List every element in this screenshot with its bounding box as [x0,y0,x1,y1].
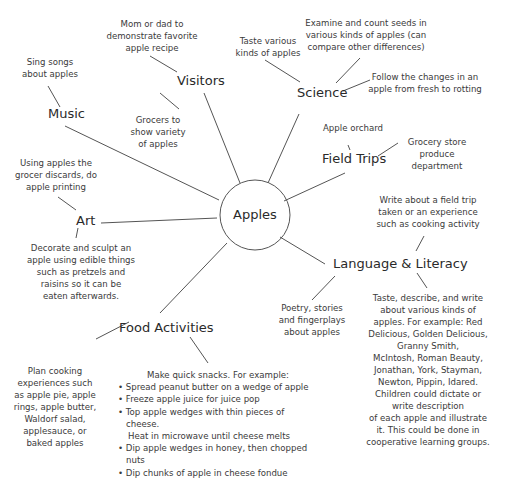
note-line: as apple pie, apple [12,389,98,401]
note-visitors-mom-dad: Mom or dad to demonstrate favorite apple… [104,18,200,54]
note-line: about apples [20,68,80,80]
note-line: about various kinds of [362,304,494,316]
note-line: Examine and count seeds in [304,17,428,29]
note-line: Taste, describe, and write [362,292,494,304]
note-line: apple from fresh to rotting [367,83,483,95]
note-line: about apples [277,326,347,338]
note-line: experiences such [12,377,98,389]
note-line: McIntosh, Roman Beauty, [362,352,494,364]
note-line: Newton, Pippin, Idared. [362,376,494,388]
note-line: Apple orchard [318,122,388,134]
note-line: Using apples the [14,157,98,169]
note-line: Sing songs [20,56,80,68]
snack-item: Top apple wedges with thin pieces of che… [118,406,318,430]
note-visitors-grocers: Grocers to show variety of apples [128,114,188,150]
note-line: Grocery store [402,136,472,148]
snack-item: Dip apple wedges in honey, then chopped … [118,442,318,466]
note-line: apple printing [14,181,98,193]
note-food-cooking: Plan cooking experiences such as apple p… [12,365,98,449]
category-field-trips: Field Trips [322,151,386,166]
note-line: taken or an experience [373,206,483,218]
category-language-literacy: Language & Literacy [333,256,468,271]
category-science: Science [297,85,347,100]
note-line: raisins so it can be [26,278,136,290]
category-art: Art [76,213,95,228]
note-line: cooperative learning groups. [362,436,494,448]
snack-item: Freeze apple juice for juice pop [118,393,318,405]
snack-item-continuation: Heat in microwave until cheese melts [118,430,318,442]
note-art-sculpt: Decorate and sculpt an apple using edibl… [26,242,136,302]
note-line: grocer discards, do [14,169,98,181]
note-line: Taste various [228,35,308,47]
note-line: of apples [128,138,188,150]
note-line: Plan cooking [12,365,98,377]
note-line: Decorate and sculpt an [26,242,136,254]
note-line: rings, apple butter, [12,401,98,413]
snack-item: Spread peanut butter on a wedge of apple [118,381,318,393]
note-food-snacks: Make quick snacks. For example: Spread p… [118,369,318,479]
note-line: Poetry, stories [277,302,347,314]
snack-item: Dip chunks of apple in cheese fondue [118,467,318,479]
note-line: and fingerplays [277,314,347,326]
note-line: baked apples [12,437,98,449]
note-science-taste: Taste various kinds of apples [228,35,308,59]
note-lang-taste-describe: Taste, describe, and write about various… [362,292,494,448]
note-line: applesauce, or [12,425,98,437]
note-line: produce [402,148,472,160]
note-line: show variety [128,126,188,138]
note-lang-write-trip: Write about a field trip taken or an exp… [373,194,483,230]
category-food-activities: Food Activities [119,320,214,335]
note-line: Delicious, Golden Delicious, [362,328,494,340]
note-line: write description [362,400,494,412]
note-line: eaten afterwards. [26,290,136,302]
note-art-printing: Using apples the grocer discards, do app… [14,157,98,193]
note-line: kinds of apples [228,47,308,59]
note-lang-poetry: Poetry, stories and fingerplays about ap… [277,302,347,338]
note-line: apple recipe [104,42,200,54]
center-node-apples: Apples [233,207,277,222]
note-line: Granny Smith, [362,340,494,352]
note-line: various kinds of apples (can [304,29,428,41]
note-music-songs: Sing songs about apples [20,56,80,80]
note-line: such as cooking activity [373,218,483,230]
note-line: Mom or dad to [104,18,200,30]
category-visitors: Visitors [177,73,225,88]
note-science-seeds: Examine and count seeds in various kinds… [304,17,428,53]
note-line: demonstrate favorite [104,30,200,42]
snacks-heading: Make quick snacks. For example: [118,369,318,381]
category-music: Music [48,106,85,121]
note-line: Write about a field trip [373,194,483,206]
note-line: Grocers to [128,114,188,126]
snacks-list: Spread peanut butter on a wedge of apple… [118,381,318,479]
note-line: apple using edible things [26,254,136,266]
note-field-grocery: Grocery store produce department [402,136,472,172]
note-line: it. This could be done in [362,424,494,436]
note-line: Children could dictate or [362,388,494,400]
note-science-changes: Follow the changes in an apple from fres… [367,71,483,95]
note-line: apples. For example: Red [362,316,494,328]
note-line: of each apple and illustrate [362,412,494,424]
note-line: department [402,160,472,172]
note-line: Waldorf salad, [12,413,98,425]
note-line: compare other differences) [304,41,428,53]
note-line: Follow the changes in an [367,71,483,83]
note-line: such as pretzels and [26,266,136,278]
note-line: Jonathan, York, Stayman, [362,364,494,376]
note-field-orchard: Apple orchard [318,122,388,134]
